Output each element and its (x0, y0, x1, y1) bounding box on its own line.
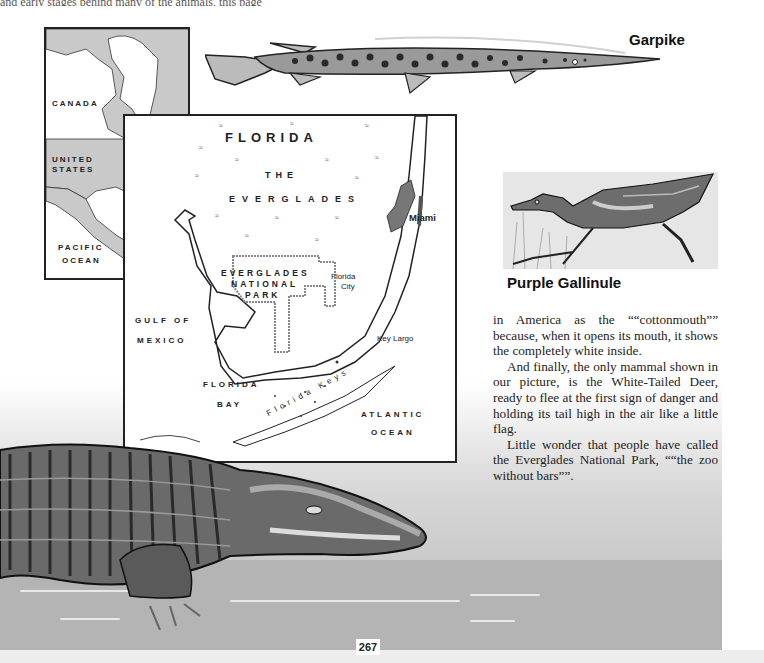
marsh-symbol-icon: ≈ (365, 122, 369, 129)
the-label: THE (265, 170, 298, 180)
marsh-symbol-icon: ≈ (245, 232, 249, 239)
marsh-symbol-icon: ≈ (325, 156, 329, 163)
atlantic-ocean-label-line1: ATLANTIC (361, 410, 424, 419)
marsh-symbol-icon: ≈ (375, 154, 379, 161)
book-page: and early stages behind many of the anim… (0, 0, 764, 663)
florida-city-label-line1: Florida (331, 272, 355, 281)
key-largo-label: Key Largo (377, 334, 413, 343)
everglades-park-label-line2: NATIONAL (231, 279, 298, 289)
cutoff-text-line: and early stages behind many of the anim… (0, 0, 764, 6)
gulf-of-mexico-label-line1: GULF OF (135, 316, 191, 325)
page-bottom-margin (0, 650, 764, 663)
pacific-ocean-label-line2: OCEAN (62, 256, 101, 265)
florida-map-title: FLORIDA (225, 130, 318, 145)
marsh-symbol-icon: ≈ (315, 236, 319, 243)
purple-gallinule-caption: Purple Gallinule (507, 274, 621, 291)
marsh-symbol-icon: ≈ (195, 172, 199, 179)
paragraph-zoo-without-bars: Little wonder that people have called th… (493, 437, 718, 484)
everglades-park-label-line3: PARK (245, 290, 280, 300)
marsh-symbol-icon: ≈ (215, 212, 219, 219)
paragraph-cottonmouth: in America as the ““cottonmouth”” becaus… (493, 312, 718, 359)
marsh-symbol-icon: ≈ (335, 214, 339, 221)
florida-city-label-line2: City (341, 282, 355, 291)
everglades-region-label: EVERGLADES (229, 194, 361, 204)
marsh-symbol-icon: ≈ (275, 214, 279, 221)
marsh-symbol-icon: ≈ (355, 174, 359, 181)
water-ripple (470, 620, 515, 622)
garpike-caption: Garpike (629, 31, 685, 48)
marsh-symbol-icon: ≈ (290, 120, 294, 127)
marsh-symbol-icon: ≈ (235, 156, 239, 163)
florida-bay-label-line1: FLORIDA (203, 380, 260, 389)
united-states-label-line2: STATES (52, 165, 94, 174)
south-florida-map: FLORIDA THE EVERGLADES EVERGLADES NATION… (123, 114, 457, 463)
water-ripple (470, 594, 540, 596)
gulf-of-mexico-label-line2: MEXICO (137, 336, 187, 345)
alligator-illustration (0, 430, 440, 630)
florida-bay-label-line2: BAY (217, 400, 242, 409)
marsh-symbol-icon: ≈ (219, 122, 223, 129)
page-number: 267 (356, 639, 380, 655)
pacific-ocean-label-line1: PACIFIC (58, 243, 103, 252)
miami-label: Miami (409, 212, 436, 223)
purple-gallinule-illustration (503, 172, 718, 269)
united-states-label-line1: UNITED (52, 155, 94, 164)
canada-label: CANADA (52, 99, 99, 108)
everglades-park-label-line1: EVERGLADES (221, 268, 310, 278)
gallinule-drawing (503, 172, 718, 269)
garpike-illustration (205, 33, 665, 95)
article-body-text: in America as the ““cottonmouth”” becaus… (493, 312, 718, 484)
cutoff-text: and early stages behind many of the anim… (0, 0, 262, 6)
paragraph-white-tailed-deer: And finally, the only mammal shown in ou… (493, 359, 718, 437)
marsh-symbol-icon: ≈ (199, 144, 203, 151)
